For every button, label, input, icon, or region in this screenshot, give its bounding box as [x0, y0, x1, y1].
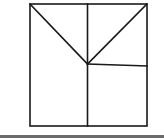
- geometric-diagram: [0, 0, 164, 138]
- diagonal-right: [88, 4, 148, 64]
- bottom-divider-bar: [0, 135, 164, 138]
- horizontal-divider: [88, 64, 148, 66]
- diagonal-left: [30, 4, 88, 64]
